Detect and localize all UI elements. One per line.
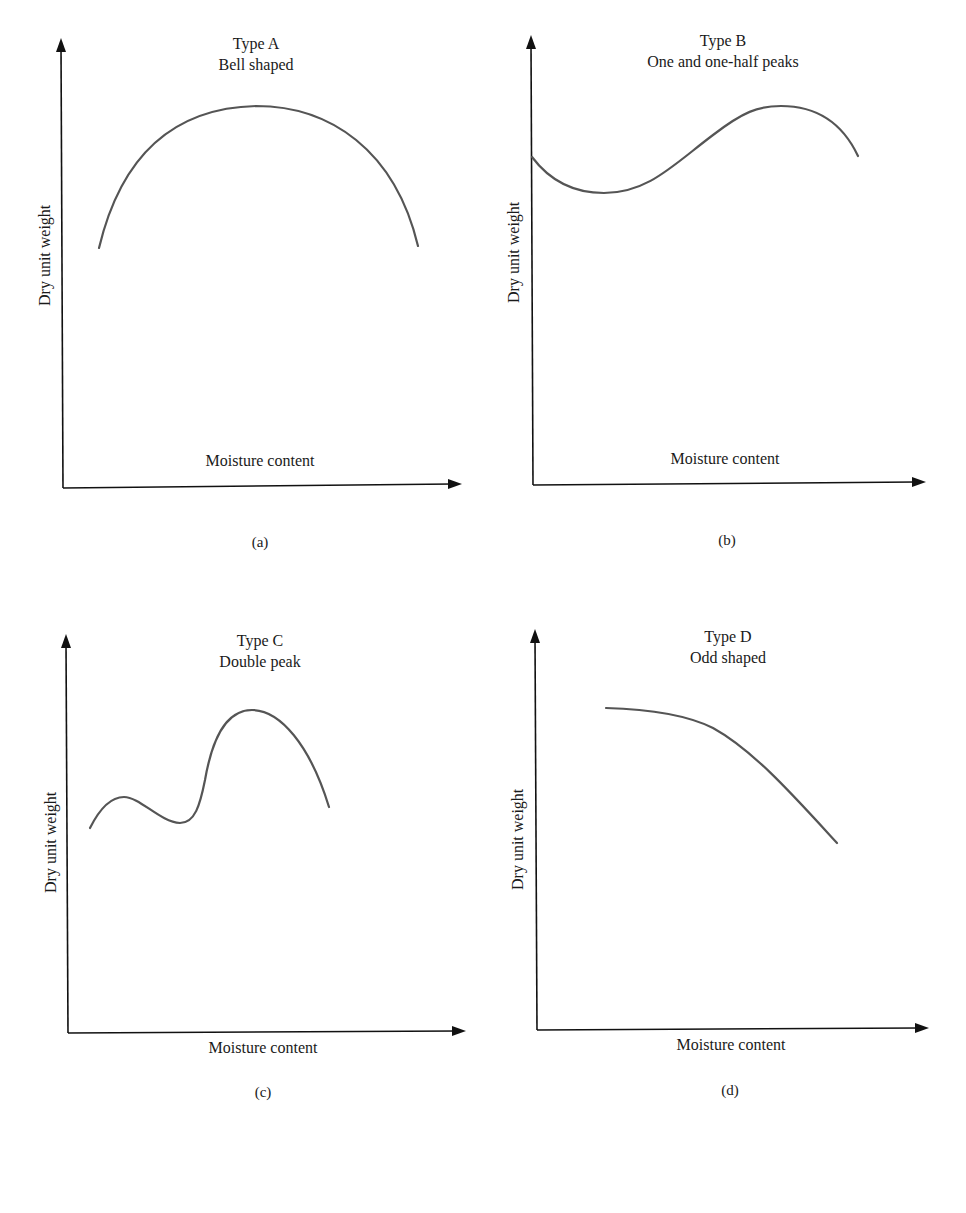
panel-title: Type D Odd shaped [628,626,828,668]
x-axis-arrow-icon [452,1026,466,1036]
panel-caption: (a) [230,534,290,551]
y-axis-arrow-icon [530,629,540,643]
x-axis-arrow-icon [915,1023,929,1033]
y-axis [66,642,68,1033]
type-label: Type D [628,626,828,647]
y-axis-label: Dry unit weight [42,792,60,893]
x-axis [533,482,915,485]
shape-label: Odd shaped [628,647,828,668]
compaction-curve [99,106,418,248]
x-axis [537,1028,919,1030]
panel-d: Type D Odd shaped Dry unit weight Moistu… [483,600,966,1213]
y-axis-label: Dry unit weight [36,205,54,306]
y-axis-arrow-icon [61,634,71,648]
shape-label: Bell shaped [156,54,356,75]
panel-caption: (b) [697,532,757,549]
panel-b: Type B One and one-half peaks Dry unit w… [483,0,966,600]
panel-d-plot [483,600,966,1213]
x-axis-label: Moisture content [163,1039,363,1057]
type-label: Type A [156,33,356,54]
y-axis-arrow-icon [526,35,536,49]
panel-a: Type A Bell shaped Dry unit weight Moist… [0,0,483,600]
x-axis-label: Moisture content [631,1036,831,1054]
x-axis-label: Moisture content [625,450,825,468]
y-axis [61,46,63,488]
x-axis [68,1031,457,1033]
y-axis [535,637,537,1030]
panel-caption: (c) [233,1084,293,1101]
panel-title: Type A Bell shaped [156,33,356,75]
x-axis [63,484,452,488]
shape-label: Double peak [160,651,360,672]
panel-title: Type C Double peak [160,630,360,672]
compaction-curve [532,106,858,193]
y-axis-label: Dry unit weight [505,202,523,303]
panel-c: Type C Double peak Dry unit weight Moist… [0,600,483,1213]
x-axis-arrow-icon [448,479,462,489]
panel-a-plot [0,0,483,600]
type-label: Type C [160,630,360,651]
compaction-curve [606,708,837,843]
compaction-curve [90,710,329,828]
panel-c-plot [0,600,483,1213]
y-axis-arrow-icon [56,38,66,52]
panel-caption: (d) [700,1082,760,1099]
y-axis [531,43,533,485]
shape-label: One and one-half peaks [603,51,843,72]
panel-b-plot [483,0,966,600]
x-axis-arrow-icon [912,477,926,487]
x-axis-label: Moisture content [160,452,360,470]
y-axis-label: Dry unit weight [509,789,527,890]
type-label: Type B [603,30,843,51]
panel-title: Type B One and one-half peaks [603,30,843,72]
